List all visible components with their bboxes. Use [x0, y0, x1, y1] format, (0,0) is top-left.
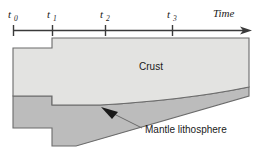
tick-label-t3: t 3 — [167, 8, 177, 23]
tick-label-t3-subscript: 3 — [172, 14, 177, 23]
tick-label-t1: t 1 — [47, 8, 57, 23]
tick-label-t0-symbol: t — [8, 8, 12, 20]
tick-label-t1-symbol: t — [47, 8, 51, 20]
diagram-canvas: t 0 t 1 t 2 t 3 Time Crust Mantle lithos… — [0, 0, 257, 153]
tick-label-t2-subscript: 2 — [106, 14, 110, 23]
tick-label-t2: t 2 — [100, 8, 110, 23]
tick-label-t3-symbol: t — [167, 8, 171, 20]
tick-label-t2-symbol: t — [100, 8, 104, 20]
time-axis — [13, 25, 252, 36]
crust-label: Crust — [139, 61, 163, 72]
tick-label-t1-subscript: 1 — [53, 14, 57, 23]
mantle-lithosphere-label: Mantle lithosphere — [145, 124, 227, 135]
lithosphere-diagram: t 0 t 1 t 2 t 3 Time Crust Mantle lithos… — [0, 0, 257, 153]
tick-label-t0: t 0 — [8, 8, 18, 23]
time-axis-label: Time — [213, 7, 235, 19]
tick-label-t0-subscript: 0 — [14, 14, 18, 23]
